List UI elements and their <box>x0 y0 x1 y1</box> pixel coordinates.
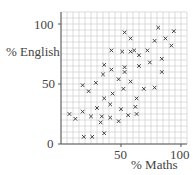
y-axis-label: % English <box>6 44 60 60</box>
x-axis-label: % Maths <box>131 157 178 173</box>
data-point-x-marker <box>99 121 103 125</box>
x-tick-50: 50 <box>114 147 127 163</box>
axes <box>58 12 187 147</box>
data-point-x-marker <box>129 37 133 41</box>
data-point-x-marker <box>110 49 114 53</box>
data-point-x-marker <box>135 97 139 101</box>
data-point-x-marker <box>129 80 133 84</box>
data-point-x-marker <box>110 68 114 72</box>
y-tick-100: 100 <box>34 17 54 33</box>
data-point-x-marker <box>111 92 115 96</box>
data-points <box>68 26 176 139</box>
y-tick-50: 50 <box>42 76 55 92</box>
scatter-plot <box>0 0 193 175</box>
y-tick-0: 0 <box>47 136 54 152</box>
data-point-x-marker <box>153 86 157 90</box>
data-point-x-marker <box>170 44 174 48</box>
data-point-x-marker <box>81 110 85 114</box>
data-point-x-marker <box>123 31 127 35</box>
data-point-x-marker <box>164 37 168 41</box>
data-point-x-marker <box>129 50 133 54</box>
data-point-x-marker <box>146 49 150 53</box>
